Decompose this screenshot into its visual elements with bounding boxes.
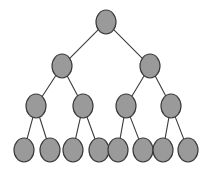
tree-edge bbox=[132, 76, 144, 97]
binary-tree-diagram bbox=[0, 0, 204, 178]
tree-node bbox=[40, 138, 60, 162]
tree-node bbox=[89, 138, 109, 162]
tree-edge bbox=[87, 117, 95, 139]
tree-node bbox=[133, 138, 153, 162]
tree-edge bbox=[76, 118, 81, 139]
tree-node bbox=[96, 10, 116, 34]
tree-node bbox=[108, 138, 128, 162]
tree-node bbox=[63, 138, 83, 162]
edge-layer bbox=[27, 30, 184, 139]
tree-edge bbox=[130, 117, 139, 139]
tree-node bbox=[52, 54, 72, 78]
tree-edge bbox=[155, 76, 165, 96]
tree-node bbox=[116, 94, 136, 118]
tree-node bbox=[153, 138, 173, 162]
tree-node bbox=[73, 94, 93, 118]
tree-edge bbox=[114, 30, 143, 59]
tree-edge bbox=[165, 118, 169, 139]
tree-edge bbox=[67, 76, 77, 96]
tree-edge bbox=[27, 117, 33, 138]
tree-node bbox=[178, 138, 198, 162]
tree-edge bbox=[175, 117, 184, 139]
node-layer bbox=[14, 10, 198, 162]
tree-edge bbox=[42, 75, 56, 96]
tree-canvas bbox=[0, 0, 204, 178]
tree-node bbox=[14, 138, 34, 162]
tree-edge bbox=[120, 118, 124, 139]
tree-node bbox=[26, 94, 46, 118]
tree-node bbox=[161, 94, 181, 118]
tree-edge bbox=[70, 30, 99, 59]
tree-edge bbox=[40, 117, 47, 139]
tree-node bbox=[140, 54, 160, 78]
